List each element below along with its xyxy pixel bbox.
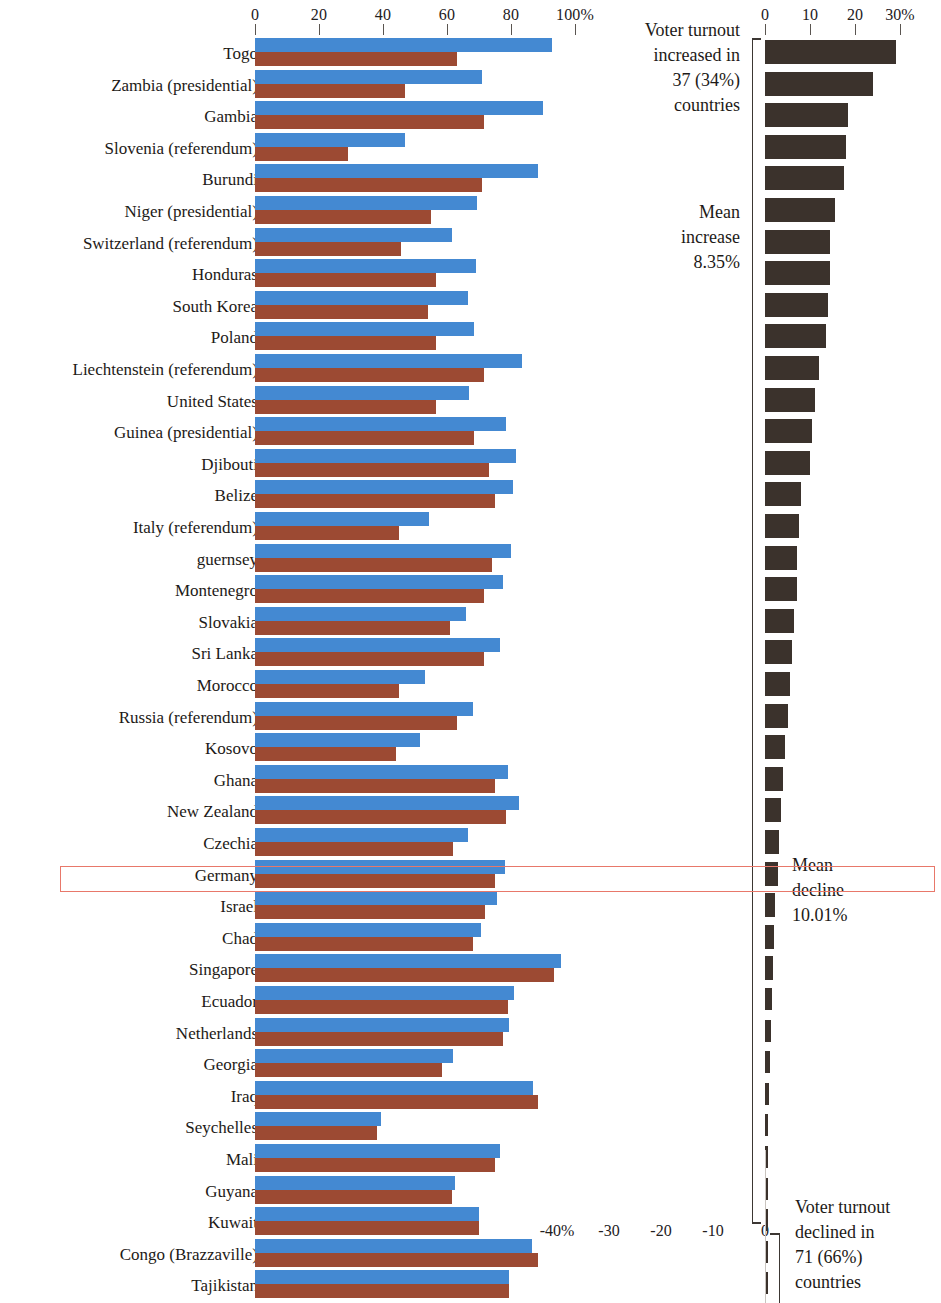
bar-change [765,767,783,791]
bar-blue [255,860,505,874]
bar-brown [255,1253,538,1267]
voter-turnout-chart: 020406080100% 0102030% -40%-30-20-100 To… [0,0,941,1303]
bar-change [765,956,773,980]
row-label: Guyana [205,1183,258,1200]
row-label: Israel [220,898,258,915]
decline-bracket [779,1233,780,1303]
bar-blue [255,512,429,526]
bar-brown [255,1000,508,1014]
row-label: Poland [211,329,258,346]
bar-blue [255,1112,381,1126]
bar-change [765,925,774,949]
bar-brown [255,305,428,319]
left-axis-tick-label: 0 [251,6,259,24]
bar-brown [255,210,431,224]
bar-blue [255,449,516,463]
row-label: Seychelles [185,1119,258,1136]
bar-brown [255,526,399,540]
left-axis-tick [255,24,256,35]
row-label: Ghana [214,772,258,789]
right-axis-tick [810,24,811,35]
bar-change [765,704,788,728]
bar-brown [255,652,484,666]
bar-blue [255,702,473,716]
bar-brown [255,494,495,508]
bar-change [765,230,830,254]
left-axis-tick [511,24,512,35]
row-label: Tajikistan [191,1277,258,1294]
bar-blue [255,259,476,273]
increase-bracket-bottom-cap [752,1222,761,1224]
bar-brown [255,1190,452,1204]
bar-brown [255,684,399,698]
bar-brown [255,242,401,256]
row-label: Italy (referendum) [133,519,258,536]
row-label: Niger (presidential) [124,203,258,220]
bar-blue [255,954,561,968]
bar-change [765,419,812,443]
bar-brown [255,147,348,161]
bar-brown [255,558,492,572]
bar-blue [255,986,514,1000]
bar-change [765,103,848,127]
left-axis-tick-label: 60 [439,6,455,24]
right-axis-tick-label: 10 [802,6,818,24]
bar-change [765,1020,771,1042]
bar-blue [255,765,508,779]
bottom-axis-tick-label: -30 [598,1222,619,1240]
bar-brown [255,905,485,919]
bar-brown [255,336,436,350]
zero-reference-line [765,1150,766,1303]
bottom-axis-tick-label: -40% [540,1222,575,1240]
bar-blue [255,607,466,621]
row-label: Morocco [197,677,258,694]
bar-blue [255,1270,509,1284]
bar-brown [255,463,489,477]
mean-increase-note: Mean increase 8.35% [600,200,740,275]
row-label: Liechtenstein (referendum) [73,361,259,378]
right-axis-tick [900,24,901,35]
bar-blue [255,923,481,937]
right-axis-tick [855,24,856,35]
bottom-axis-tick-label: -20 [650,1222,671,1240]
bar-brown [255,400,436,414]
bar-blue [255,196,477,210]
bar-change [765,451,810,475]
increase-bracket [752,38,753,1223]
bar-blue [255,1049,453,1063]
bar-change [765,166,844,190]
bar-brown [255,937,473,951]
row-label: Kosovo [205,740,258,757]
bar-brown [255,1284,509,1298]
bar-change [765,1051,770,1073]
bar-brown [255,1158,495,1172]
bar-change [765,72,873,96]
bar-blue [255,291,468,305]
bar-brown [255,84,405,98]
bottom-axis-tick-label: -10 [702,1222,723,1240]
bar-blue [255,733,420,747]
bar-brown [255,1063,442,1077]
bar-blue [255,228,452,242]
right-axis-tick [765,24,766,35]
bar-change [765,261,830,285]
row-label: Djibouti [201,456,258,473]
bar-change [765,609,794,633]
bar-blue [255,1018,509,1032]
bar-blue [255,544,511,558]
bar-blue [255,354,522,368]
bar-change [765,324,826,348]
row-label: Sri Lanka [191,645,258,662]
bar-brown [255,874,495,888]
bar-blue [255,891,497,905]
row-label: Ecuador [201,993,258,1010]
bar-blue [255,417,506,431]
bar-brown [255,52,457,66]
left-axis-tick-label: 20 [311,6,327,24]
row-label: Singapore [189,961,258,978]
row-label: Togo [223,45,258,62]
bar-blue [255,1239,532,1253]
decline-bracket-top-cap [770,1233,779,1235]
row-label: Belize [215,487,258,504]
bar-brown [255,1032,503,1046]
